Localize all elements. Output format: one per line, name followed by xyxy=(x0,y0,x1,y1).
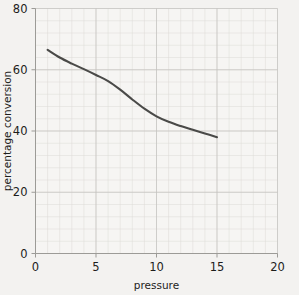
x-axis-title: pressure xyxy=(134,279,179,291)
y-tick-label: 80 xyxy=(13,2,28,16)
x-tick-label: 20 xyxy=(270,260,285,274)
chart-figure: 05101520 020406080 pressure percentage c… xyxy=(0,0,299,295)
y-tick-label: 60 xyxy=(13,63,28,77)
x-tick-label: 5 xyxy=(92,260,99,274)
y-tick-label: 0 xyxy=(20,247,27,261)
x-tick-label: 0 xyxy=(32,260,39,274)
line-chart: 05101520 020406080 pressure percentage c… xyxy=(0,0,299,295)
y-tick-label: 40 xyxy=(13,124,28,138)
x-tick-label: 15 xyxy=(210,260,225,274)
x-tick-label: 10 xyxy=(149,260,164,274)
y-tick-label: 20 xyxy=(13,185,28,199)
y-axis-title: percentage conversion xyxy=(1,71,13,191)
